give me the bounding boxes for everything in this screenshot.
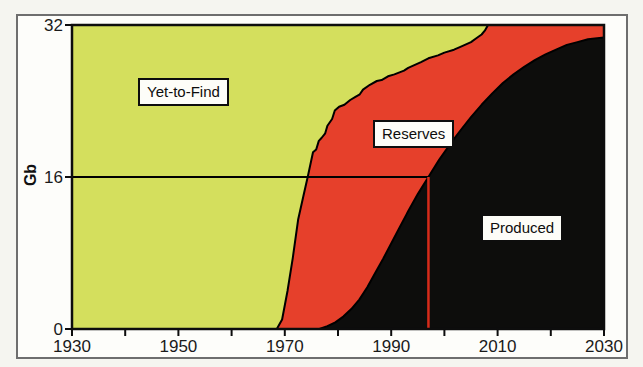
x-tick-label: 1930 — [53, 338, 91, 355]
yet-to-find-label: Yet-to-Find — [138, 78, 229, 106]
produced-label: Produced — [481, 214, 563, 242]
x-tick-label: 1950 — [159, 338, 197, 355]
y-tick-label: 0 — [29, 321, 63, 338]
y-tick-label: 32 — [29, 17, 63, 34]
x-tick-label: 1990 — [372, 338, 410, 355]
depletion-area-chart — [0, 0, 643, 367]
figure: Gb Yet-to-Find Reserves Produced 1930195… — [0, 0, 643, 367]
y-tick-label: 16 — [29, 169, 63, 186]
x-tick-label: 2030 — [585, 338, 623, 355]
reserves-label: Reserves — [373, 120, 454, 148]
x-tick-label: 2010 — [479, 338, 517, 355]
x-tick-label: 1970 — [266, 338, 304, 355]
